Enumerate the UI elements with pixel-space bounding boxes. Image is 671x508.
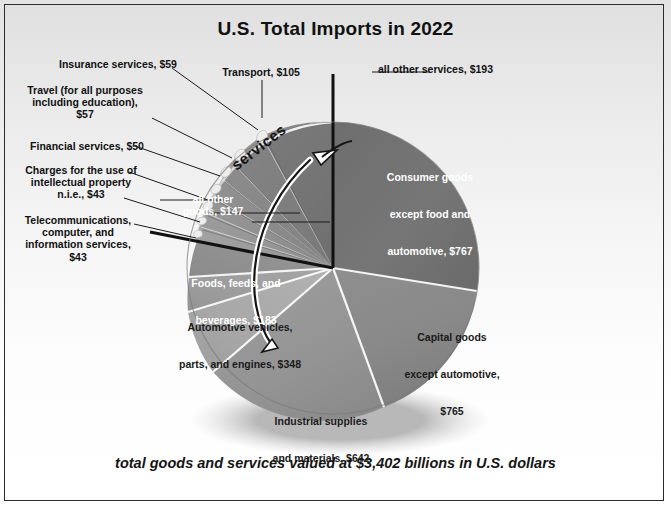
label-telecom-line2: computer, and	[2, 226, 154, 238]
slice-label-capital-line2: except automotive,	[372, 368, 532, 380]
chart-caption: total goods and services valued at $3,40…	[0, 455, 671, 471]
slice-label-consumer-line3: automotive, $767	[355, 245, 505, 257]
slice-label-foods: Foods, feeds, and beverages, $183	[156, 252, 316, 339]
label-travel-line2: including education),	[10, 96, 160, 108]
slice-label-industrial-line1: Industrial supplies	[236, 415, 406, 427]
label-transport: Transport, $105	[196, 66, 326, 78]
slice-label-consumer-line1: Consumer goods	[355, 171, 505, 183]
label-telecommunications: Telecommunications, computer, and inform…	[2, 214, 154, 263]
label-all-other-goods: all other goods, $147	[168, 193, 258, 217]
label-insurance-services: Insurance services, $59	[28, 58, 208, 70]
slice-label-consumer-line2: except food and	[355, 208, 505, 220]
slice-label-foods-line1: Foods, feeds, and	[156, 277, 316, 289]
label-telecom-line3: information services,	[2, 238, 154, 250]
slice-label-consumer-goods: Consumer goods except food and automotiv…	[355, 146, 505, 270]
slice-label-automotive-line2: parts, and engines, $348	[150, 358, 330, 370]
label-all-other-goods-line2: goods, $147	[168, 205, 258, 217]
label-all-other-goods-line1: all other	[168, 193, 258, 205]
slice-label-capital-line1: Capital goods	[372, 331, 532, 343]
label-travel-line1: Travel (for all purposes	[10, 84, 160, 96]
label-ip-line3: n.i.e., $43	[6, 188, 156, 200]
slice-label-foods-line2: beverages, $183	[156, 314, 316, 326]
label-travel-line3: $57	[10, 108, 160, 120]
label-intellectual-property: Charges for the use of intellectual prop…	[6, 164, 156, 201]
label-telecom-line4: $43	[2, 251, 154, 263]
label-all-other-services: all other services, $193	[378, 63, 598, 75]
label-ip-line1: Charges for the use of	[6, 164, 156, 176]
label-ip-line2: intellectual property	[6, 176, 156, 188]
label-travel: Travel (for all purposes including educa…	[10, 84, 160, 121]
label-financial-services: Financial services, $50	[12, 140, 162, 152]
label-telecom-line1: Telecommunications,	[2, 214, 154, 226]
